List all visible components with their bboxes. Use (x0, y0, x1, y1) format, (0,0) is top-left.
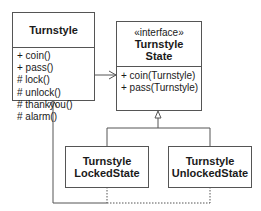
interface-operations: + coin(Turnstyle) + pass(Turnstyle) (117, 67, 201, 96)
class-turnstyle-locked-state[interactable]: Turnstyle LockedState (65, 146, 149, 188)
class-turnstyle-unlocked-state[interactable]: Turnstyle UnlockedState (168, 146, 252, 188)
operation-coin: + coin(Turnstyle) (121, 70, 197, 82)
interface-turnstyle-state[interactable]: «interface» Turnstyle State + coin(Turns… (116, 21, 202, 111)
class-name-line2: State (146, 50, 173, 62)
class-name-line1: Turnstyle (186, 155, 235, 167)
class-name: Turnstyle (29, 24, 78, 36)
realization-arrow (107, 111, 210, 146)
dependency-lines (107, 187, 210, 203)
stereotype-label: «interface» (134, 27, 183, 38)
interface-header: «interface» Turnstyle State (117, 22, 201, 67)
operation-pass: + pass(Turnstyle) (121, 82, 197, 94)
class-turnstyle-operations: + coin() + pass() # lock() # unlock() # … (13, 48, 94, 125)
association-arrow (94, 71, 116, 79)
class-turnstyle-header: Turnstyle (13, 13, 94, 48)
class-name-line2: UnlockedState (172, 167, 248, 179)
class-name-line1: Turnstyle (83, 155, 132, 167)
operation-alarm: # alarm() (17, 111, 90, 123)
operation-pass: + pass() (17, 62, 90, 74)
operation-unlock: # unlock() (17, 87, 90, 99)
operation-coin: + coin() (17, 50, 90, 62)
operation-lock: # lock() (17, 74, 90, 86)
class-name-line2: LockedState (74, 167, 139, 179)
class-name-line1: Turnstyle (135, 38, 184, 50)
class-turnstyle[interactable]: Turnstyle + coin() + pass() # lock() # u… (12, 12, 95, 101)
operation-thankyou: # thankyou() (17, 99, 90, 111)
